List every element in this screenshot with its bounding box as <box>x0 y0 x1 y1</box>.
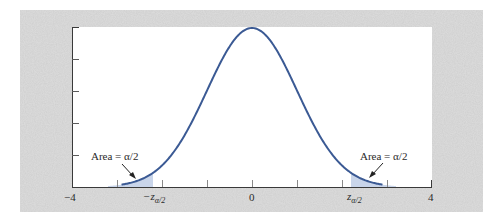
pos-z-subscript: α/2 <box>351 196 361 205</box>
neg-z-text: −z <box>143 190 155 202</box>
neg-z-subscript: α/2 <box>155 196 165 205</box>
left-area-label: Area = α/2 <box>91 150 138 162</box>
x-tick-label-zero: 0 <box>249 191 255 203</box>
x-tick-label-max: 4 <box>428 191 434 203</box>
normal-distribution-chart: Area = α/2 Area = α/2 −4 0 4 −zα/2 zα/2 <box>0 0 498 219</box>
right-area-label: Area = α/2 <box>360 150 407 162</box>
x-tick-label-min: −4 <box>64 191 76 203</box>
plot-area <box>72 27 432 187</box>
